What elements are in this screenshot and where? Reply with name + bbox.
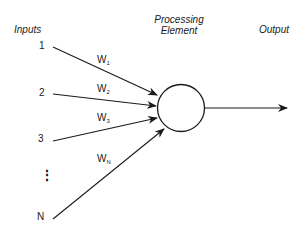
processing-heading-line2: Element [150,25,208,36]
weight-3: W3 [97,112,110,127]
processing-heading-line1: Processing [150,14,208,25]
input-label-3: 3 [38,133,44,144]
input-label-2: 2 [39,87,45,98]
input-label-1: 1 [39,40,45,51]
ellipsis-vertical: ⋮ [40,168,54,182]
weight-n: WN [97,153,111,168]
input-n-arrow [53,129,164,219]
output-heading: Output [259,24,289,35]
weight-2: W2 [97,83,110,98]
input-label-n: N [37,211,44,222]
weight-1: W1 [97,54,110,69]
processing-element-circle [158,85,205,132]
inputs-heading: Inputs [14,24,41,35]
